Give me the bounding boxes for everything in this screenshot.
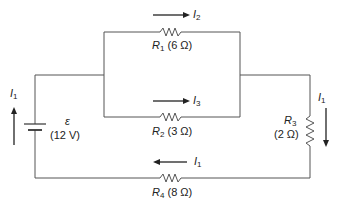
arrow-i3-head: [183, 98, 190, 104]
label-r3-name: R3: [284, 115, 296, 128]
resistor-r2-zigzag: [160, 113, 181, 121]
label-i2: I2: [193, 9, 201, 22]
label-r2: R2 (3 Ω): [152, 126, 192, 139]
circuit-diagram: [0, 0, 341, 212]
label-r1: R1 (6 Ω): [152, 40, 192, 53]
wire-right-top: [240, 75, 310, 116]
label-emf-symbol: ε: [65, 116, 70, 127]
resistor-r4-zigzag: [160, 174, 181, 182]
label-i1-bottom: I1: [194, 156, 202, 169]
label-i1-left: I1: [10, 88, 18, 101]
resistor-r1-zigzag: [160, 28, 181, 36]
resistor-r3-zigzag: [306, 116, 314, 146]
arrow-i2-head: [183, 12, 190, 18]
label-r4: R4 (8 Ω): [152, 187, 192, 200]
arrow-i1-left-head: [11, 107, 17, 114]
label-i3: I3: [193, 95, 201, 108]
label-emf-value: (12 V): [50, 130, 80, 141]
label-i1-right: I1: [318, 92, 326, 105]
label-r3-value: (2 Ω): [274, 129, 299, 140]
arrow-i1-bottom-head: [153, 159, 160, 165]
arrow-i1-right-head: [323, 140, 329, 147]
